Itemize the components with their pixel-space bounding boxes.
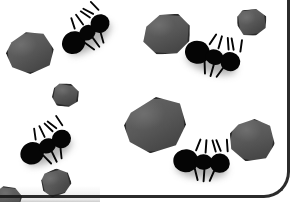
- rock-facet-shading: [0, 187, 21, 202]
- rock-bottom-left: [38, 166, 74, 199]
- ant-leg-upper-2: [205, 139, 208, 154]
- rock-facet-shading: [52, 83, 78, 107]
- ant-antenna-2: [239, 39, 243, 53]
- rock-facet-shading: [143, 14, 190, 55]
- ant-antenna-2: [55, 115, 64, 127]
- ant-top-left: [56, 5, 118, 61]
- ant-top-right: [181, 35, 246, 79]
- rock-top-right: [235, 6, 269, 38]
- ant-antenna-2: [90, 1, 100, 12]
- ant-leg-upper-2: [217, 35, 223, 49]
- ant-leg-upper-2: [38, 125, 46, 138]
- rock-left-lowedge: [0, 185, 23, 202]
- scene-canvas: [0, 0, 293, 202]
- ant-antenna-1: [231, 37, 235, 51]
- rock-facet-shading: [41, 168, 72, 197]
- ant-leg-upper-3: [227, 37, 230, 51]
- ant-antenna-2: [226, 139, 229, 153]
- rock-facet-shading: [227, 116, 276, 164]
- ant-bottom-left: [15, 121, 78, 171]
- ant-bottom-right: [172, 146, 233, 179]
- ant-leg-upper-1: [33, 128, 37, 141]
- rock-facet-shading: [125, 98, 186, 153]
- ant-leg-upper-2: [75, 13, 85, 25]
- rock-facet-shading: [237, 8, 266, 35]
- rock-small-upper: [50, 81, 81, 109]
- rock-left-upper: [4, 29, 56, 77]
- rock-top-center: [141, 11, 192, 56]
- rock-facet-shading: [6, 31, 54, 74]
- ant-leg-upper-1: [208, 33, 217, 45]
- ant-leg-upper-1: [195, 138, 202, 151]
- ant-leg-upper-1: [70, 17, 76, 30]
